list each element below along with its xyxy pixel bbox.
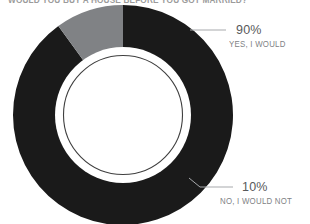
chart-canvas: WOULD YOU BUY A HOUSE BEFORE YOU GOT MAR… [0,0,310,224]
callout-yes[interactable]: 90% YES, I WOULD [229,24,288,50]
callout-yes-description: YES, I WOULD [229,39,286,50]
callout-yes-percent: 90% [236,24,288,37]
callout-no-percent: 10% [242,181,295,194]
callout-no-description: NO, I WOULD NOT [220,196,292,207]
callout-no[interactable]: 10% NO, I WOULD NOT [236,181,295,207]
donut-inner-outline [64,56,183,175]
